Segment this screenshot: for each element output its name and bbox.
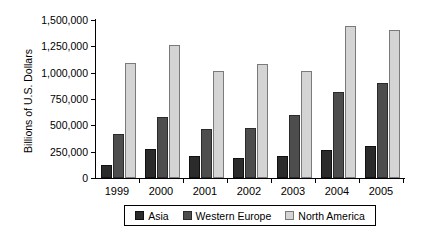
legend-label: North America: [298, 210, 365, 222]
x-axis-tick-mark: [227, 179, 228, 183]
legend-label: Western Europe: [196, 210, 272, 222]
bar-chart: Billions of U.S. Dollars 0250,000500,000…: [0, 0, 448, 246]
legend-swatch-icon: [183, 211, 192, 220]
y-axis-tick-label: 1,500,000: [0, 15, 88, 25]
y-axis-tick-mark: [91, 178, 96, 179]
y-axis-tick-label: 750,000: [0, 94, 88, 104]
bar-western-europe-2003: [289, 115, 300, 178]
x-axis-tick-mark: [359, 179, 360, 183]
bar-asia-2001: [189, 156, 200, 178]
y-axis-tick-label: 1,250,000: [0, 41, 88, 51]
bar-north-america-2005: [389, 30, 400, 178]
bar-north-america-2004: [345, 26, 356, 178]
x-axis-tick-mark: [315, 179, 316, 183]
bar-western-europe-2005: [377, 83, 388, 178]
y-axis-tick-label: 0: [0, 173, 88, 183]
x-axis-tick-mark: [183, 179, 184, 183]
y-axis-tick-label: 1,000,000: [0, 68, 88, 78]
legend-swatch-icon: [135, 211, 144, 220]
bar-asia-2002: [233, 158, 244, 178]
x-axis-tick-label-2005: 2005: [357, 185, 405, 197]
chart-legend: AsiaWestern EuropeNorth America: [124, 205, 376, 226]
bar-western-europe-2000: [157, 117, 168, 178]
y-axis-tick-labels: 0250,000500,000750,0001,000,0001,250,000…: [0, 0, 88, 246]
legend-label: Asia: [148, 210, 168, 222]
x-axis-tick-label-2002: 2002: [225, 185, 273, 197]
legend-item-western-europe[interactable]: Western Europe: [183, 210, 272, 222]
bar-north-america-2002: [257, 64, 268, 178]
x-axis-tick-label-1999: 1999: [93, 185, 141, 197]
x-axis-tick-label-2001: 2001: [181, 185, 229, 197]
y-axis-tick-label: 500,000: [0, 120, 88, 130]
x-axis-tick-mark: [271, 179, 272, 183]
bar-asia-2000: [145, 149, 156, 178]
x-axis-tick-label-2004: 2004: [313, 185, 361, 197]
x-axis-tick-mark: [403, 179, 404, 183]
bar-north-america-1999: [125, 63, 136, 178]
bar-north-america-2003: [301, 71, 312, 178]
bar-asia-2004: [321, 150, 332, 178]
legend-swatch-icon: [285, 211, 294, 220]
bar-north-america-2000: [169, 45, 180, 178]
legend-item-asia[interactable]: Asia: [135, 210, 168, 222]
x-axis-tick-label-2000: 2000: [137, 185, 185, 197]
bar-north-america-2001: [213, 71, 224, 178]
bar-asia-2005: [365, 146, 376, 178]
bar-asia-1999: [101, 165, 112, 178]
bar-western-europe-1999: [113, 134, 124, 178]
legend-item-north-america[interactable]: North America: [285, 210, 365, 222]
bar-western-europe-2002: [245, 128, 256, 178]
plot-area: [96, 20, 404, 178]
bar-western-europe-2004: [333, 92, 344, 178]
y-axis-tick-label: 250,000: [0, 147, 88, 157]
x-axis-tick-label-2003: 2003: [269, 185, 317, 197]
x-axis-tick-mark: [139, 179, 140, 183]
bar-asia-2003: [277, 156, 288, 178]
bar-western-europe-2001: [201, 129, 212, 178]
